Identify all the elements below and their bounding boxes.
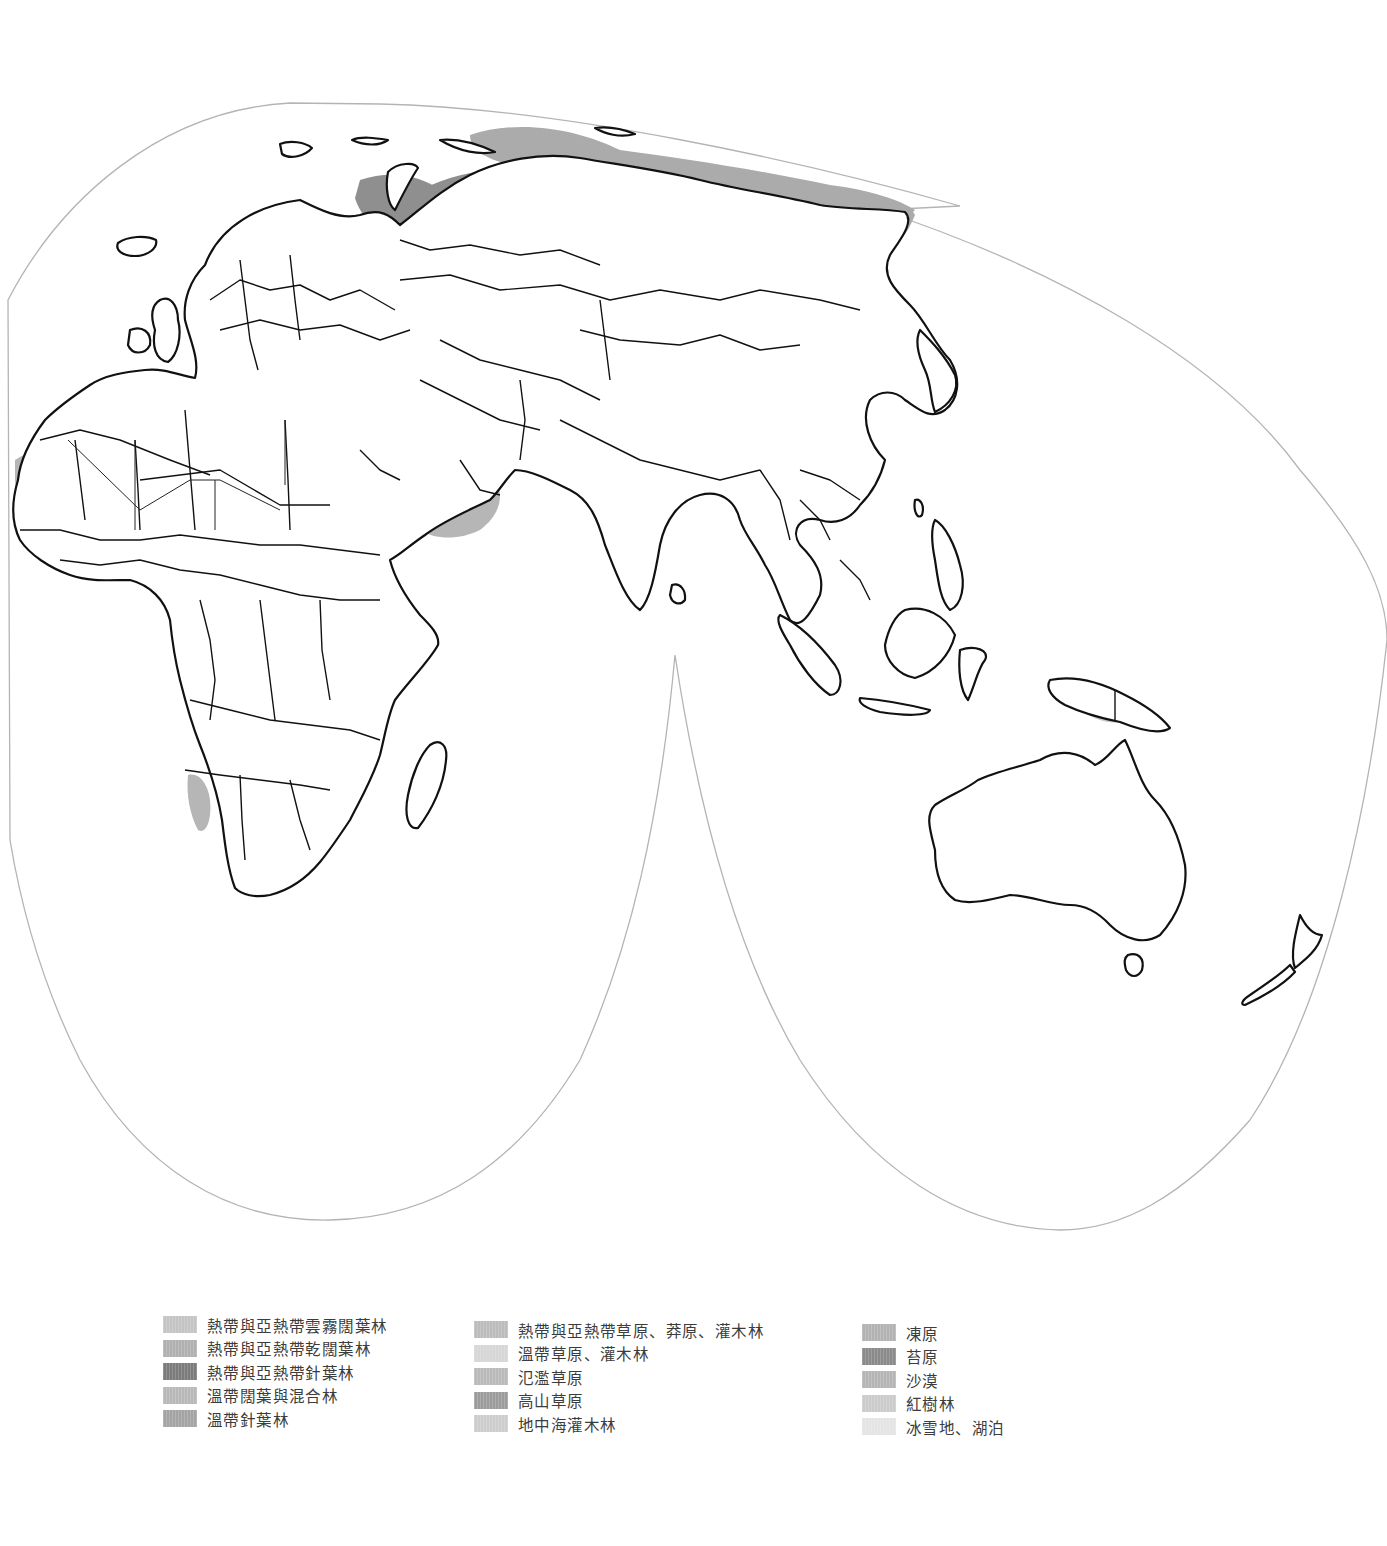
legend-column-grasslands: 熱帶與亞熱帶草原、莽原、灌木林 溫帶草原、灌木林 氾濫草原 高山草原 地中海灌木… bbox=[474, 1318, 764, 1436]
legend-column-other: 凍原 苔原 沙漠 紅樹林 冰雪地、湖泊 bbox=[862, 1321, 1004, 1439]
legend-label: 地中海灌木林 bbox=[518, 1413, 616, 1435]
swatch-icon bbox=[474, 1345, 508, 1362]
swatch-icon bbox=[862, 1348, 896, 1365]
swatch-icon bbox=[163, 1340, 197, 1357]
legend-item: 冰雪地、湖泊 bbox=[862, 1415, 1004, 1439]
swatch-icon bbox=[862, 1324, 896, 1341]
legend-item: 氾濫草原 bbox=[474, 1365, 764, 1389]
legend-item: 高山草原 bbox=[474, 1389, 764, 1413]
legend-label: 熱帶與亞熱帶乾闊葉林 bbox=[207, 1337, 371, 1359]
legend-label: 氾濫草原 bbox=[518, 1366, 584, 1388]
legend-label: 溫帶草原、灌木林 bbox=[518, 1342, 649, 1364]
land-great-britain bbox=[152, 299, 179, 362]
swatch-icon bbox=[474, 1415, 508, 1432]
legend-label: 沙漠 bbox=[906, 1369, 939, 1391]
swatch-icon bbox=[163, 1316, 197, 1333]
swatch-icon bbox=[163, 1363, 197, 1380]
land-ireland bbox=[128, 328, 150, 352]
legend-label: 熱帶與亞熱帶草原、莽原、灌木林 bbox=[518, 1319, 764, 1341]
legend-column-forests: 熱帶與亞熱帶雲霧闊葉林 熱帶與亞熱帶乾闊葉林 熱帶與亞熱帶針葉林 溫帶闊葉與混合… bbox=[163, 1313, 387, 1431]
legend-item: 溫帶闊葉與混合林 bbox=[163, 1384, 387, 1408]
swatch-icon bbox=[862, 1395, 896, 1412]
legend-item: 溫帶針葉林 bbox=[163, 1407, 387, 1431]
land-tasmania bbox=[1125, 954, 1143, 976]
swatch-icon bbox=[163, 1410, 197, 1427]
legend-label: 冰雪地、湖泊 bbox=[906, 1416, 1004, 1438]
legend-item: 地中海灌木林 bbox=[474, 1412, 764, 1436]
legend-item: 苔原 bbox=[862, 1345, 1004, 1369]
legend-item: 紅樹林 bbox=[862, 1392, 1004, 1416]
swatch-icon bbox=[163, 1387, 197, 1404]
legend-item: 凍原 bbox=[862, 1321, 1004, 1345]
swatch-icon bbox=[474, 1368, 508, 1385]
swatch-icon bbox=[474, 1392, 508, 1409]
land-taiwan bbox=[915, 500, 923, 517]
biome-legend: 熱帶與亞熱帶雲霧闊葉林 熱帶與亞熱帶乾闊葉林 熱帶與亞熱帶針葉林 溫帶闊葉與混合… bbox=[0, 1313, 1387, 1453]
legend-label: 苔原 bbox=[906, 1345, 939, 1367]
legend-item: 溫帶草原、灌木林 bbox=[474, 1342, 764, 1366]
legend-label: 溫帶闊葉與混合林 bbox=[207, 1384, 338, 1406]
legend-item: 沙漠 bbox=[862, 1368, 1004, 1392]
legend-item: 熱帶與亞熱帶針葉林 bbox=[163, 1360, 387, 1384]
legend-item: 熱帶與亞熱帶雲霧闊葉林 bbox=[163, 1313, 387, 1337]
swatch-icon bbox=[862, 1371, 896, 1388]
swatch-icon bbox=[862, 1418, 896, 1435]
legend-label: 溫帶針葉林 bbox=[207, 1408, 289, 1430]
legend-label: 紅樹林 bbox=[906, 1392, 955, 1414]
world-biome-map bbox=[0, 0, 1387, 1260]
legend-label: 凍原 bbox=[906, 1322, 939, 1344]
legend-label: 熱帶與亞熱帶雲霧闊葉林 bbox=[207, 1314, 387, 1336]
legend-label: 高山草原 bbox=[518, 1389, 584, 1411]
legend-label: 熱帶與亞熱帶針葉林 bbox=[207, 1361, 355, 1383]
swatch-icon bbox=[474, 1321, 508, 1338]
legend-item: 熱帶與亞熱帶草原、莽原、灌木林 bbox=[474, 1318, 764, 1342]
land-sri-lanka bbox=[670, 584, 685, 603]
legend-item: 熱帶與亞熱帶乾闊葉林 bbox=[163, 1337, 387, 1361]
